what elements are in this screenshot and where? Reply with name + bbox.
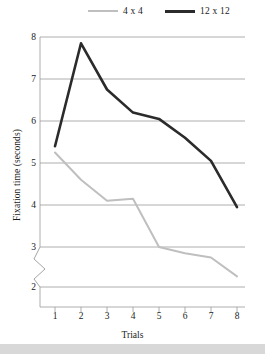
x-tick-label-6: 6 [178,312,192,322]
chart-legend: 4 x 4 12 x 12 [88,6,230,16]
legend-entry-4x4: 4 x 4 [88,6,143,16]
legend-swatch-12x12 [165,10,195,13]
y-tick-label-2: 2 [22,283,36,293]
legend-swatch-4x4 [88,10,118,12]
series-line-12x12 [55,43,237,207]
fixation-time-line-chart: 4 x 4 12 x 12 Fixation time (seconds) Tr… [0,0,265,354]
series-line-4x4 [55,153,237,277]
x-tick-label-7: 7 [204,312,218,322]
bottom-band [0,344,265,354]
y-tick-label-6: 6 [22,117,36,127]
gridlines [40,37,245,287]
axis-lines [40,37,245,307]
y-tick-label-7: 7 [22,75,36,85]
x-tick-label-4: 4 [126,312,140,322]
x-tick-label-2: 2 [74,312,88,322]
y-tick-label-4: 4 [22,201,36,211]
data-series [55,43,237,276]
x-tick-label-3: 3 [100,312,114,322]
x-axis-title: Trials [0,330,265,340]
plot-area [0,0,265,354]
y-tick-label-5: 5 [22,159,36,169]
y-axis-title: Fixation time (seconds) [12,95,22,255]
x-tick-label-1: 1 [48,312,62,322]
legend-label-12x12: 12 x 12 [200,6,230,16]
x-tick-label-5: 5 [152,312,166,322]
y-axis-break-zigzag [34,247,45,287]
legend-label-4x4: 4 x 4 [123,6,143,16]
y-tick-label-3: 3 [22,243,36,253]
legend-entry-12x12: 12 x 12 [165,6,230,16]
y-tick-label-8: 8 [22,33,36,43]
x-tick-label-8: 8 [230,312,244,322]
